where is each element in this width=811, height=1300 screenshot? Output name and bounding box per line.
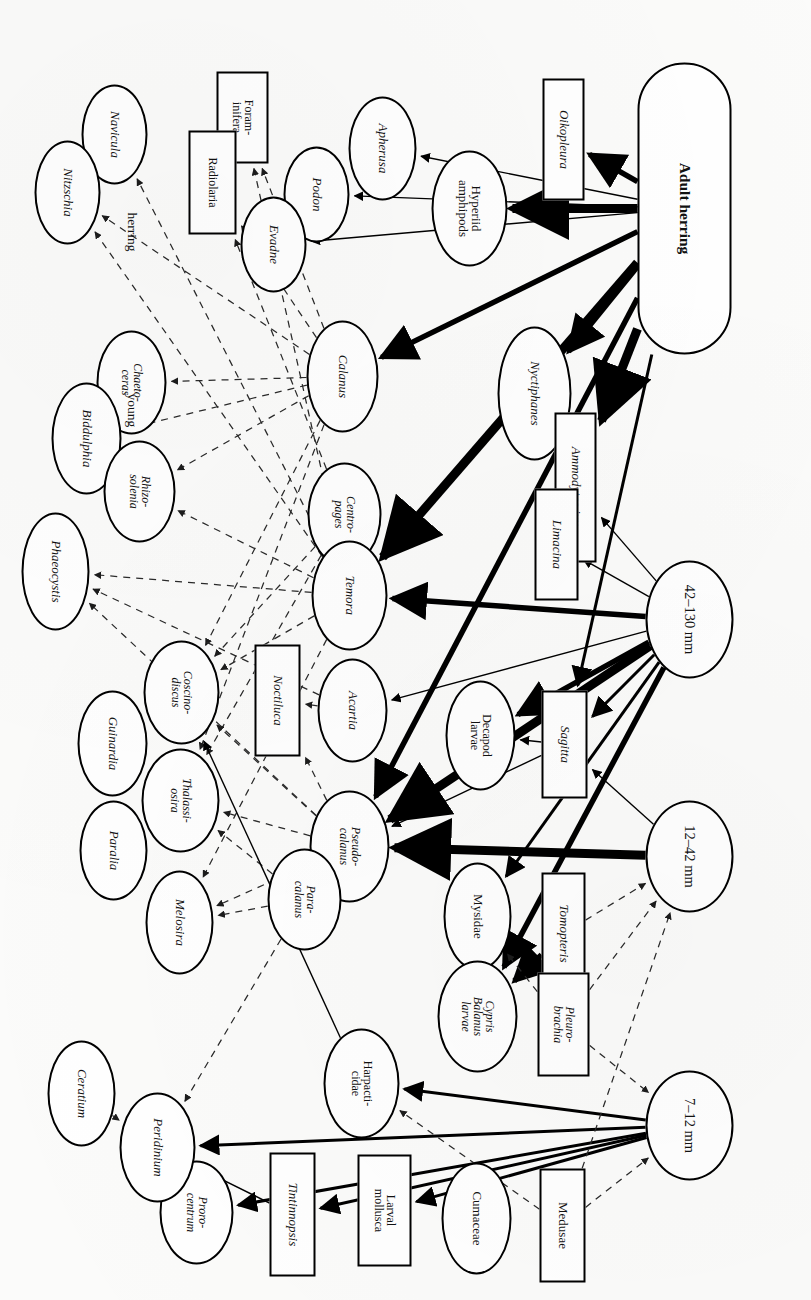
node-label: Melosira <box>172 897 185 948</box>
node-oikopleura[interactable]: Oikopleura <box>542 78 584 200</box>
node-label: Peridinium <box>150 1116 163 1179</box>
node-pleurobrachia[interactable]: Pleuro-brachia <box>537 972 589 1076</box>
node-radiolaria[interactable]: Radiolaria <box>188 130 236 234</box>
node-label: Mysidae <box>470 892 483 941</box>
node-label: Acartia <box>345 689 358 732</box>
node-label: Para-calanus <box>292 878 316 919</box>
node-adult-herring[interactable]: Adult herring <box>637 62 731 354</box>
edge-size-7-12-to-harpacticidae <box>404 1089 645 1120</box>
edge-size-12-42-to-pseudocalamus <box>394 847 645 854</box>
node-hyperiid-amphipods[interactable]: Hyperiidamphipods <box>431 150 507 266</box>
node-coscinodiscus[interactable]: Coscino-discus <box>143 640 219 744</box>
node-rhizosolenia[interactable]: Rhizo-solenia <box>103 440 175 542</box>
node-label: Guinardia <box>105 714 118 772</box>
node-peridinium[interactable]: Peridinium <box>119 1092 195 1202</box>
edge-calamus-to-chaetoceras <box>171 377 306 381</box>
node-medusae[interactable]: Medusae <box>539 1168 585 1282</box>
node-label: Evadne <box>266 223 279 266</box>
node-size-42-130[interactable]: 42–130 mm <box>645 560 733 678</box>
node-label: Cumaceae <box>469 1189 482 1247</box>
node-acartia[interactable]: Acartia <box>317 658 387 762</box>
food-web-stage: Adult herring42–130 mm12–42 mm7–12 mmOik… <box>0 0 811 1300</box>
node-label: 7–12 mm <box>682 1095 697 1154</box>
node-temora[interactable]: Temora <box>311 540 387 650</box>
node-label: Proro-centrum <box>184 1190 208 1233</box>
node-phaeocystis[interactable]: Phaeocystis <box>21 512 89 630</box>
node-label: Thalassi-osira <box>168 776 192 825</box>
node-limacina[interactable]: Limacina <box>534 488 578 600</box>
node-evadne[interactable]: Evadne <box>240 196 306 292</box>
node-decapod-larvae[interactable]: Decapodlarvae <box>445 680 515 790</box>
edge-size-42-130-to-temora <box>392 598 645 616</box>
node-label: Centro-pages <box>332 494 356 535</box>
node-label: Nyctiphanes <box>527 359 540 427</box>
node-size-7-12[interactable]: 7–12 mm <box>645 1070 733 1180</box>
node-label: CyprisBalanuslarvae <box>459 994 496 1037</box>
edge-paracalamus-to-melosira <box>218 906 268 915</box>
node-label: Pseudo-calanus <box>337 824 361 867</box>
node-harpacticidae[interactable]: Harpacti-cidae <box>323 1028 399 1138</box>
node-label: Paralia <box>106 828 119 872</box>
node-paracalamus[interactable]: Para-calanus <box>267 848 341 950</box>
edge-calamus-to-rhizosolenia <box>177 395 308 469</box>
edge-ceratium-to-peridinium <box>112 1115 119 1120</box>
node-label: Navicula <box>107 109 120 160</box>
edge-adult-herring-to-ammodytes <box>601 328 637 420</box>
node-apherusa[interactable]: Apherusa <box>348 96 416 200</box>
lbl-young: young <box>123 393 139 427</box>
node-label: Podon <box>309 175 322 213</box>
edge-paracalamus-to-thalassiosira <box>218 830 273 874</box>
figure-page: Adult herring42–130 mm12–42 mm7–12 mmOik… <box>0 0 811 1300</box>
edge-size-12-42-to-sagitta <box>592 769 653 824</box>
node-label: Adult herring <box>676 160 692 256</box>
node-cypris-balanus[interactable]: CyprisBalanuslarvae <box>437 960 517 1072</box>
node-label: Oikopleura <box>556 107 569 170</box>
lbl-herring: herring <box>123 212 139 251</box>
node-melosira[interactable]: Melosira <box>145 870 213 974</box>
node-label: Hyperiidamphipods <box>456 177 483 238</box>
node-label: Tintinnopsis <box>285 1180 298 1248</box>
node-size-12-42[interactable]: 12–42 mm <box>645 800 733 912</box>
node-label: Harpacti-cidae <box>349 1058 373 1107</box>
node-label: Pleuro-brachia <box>551 1003 575 1044</box>
edge-centropages-to-coscinodiscus <box>214 546 315 656</box>
edge-adult-herring-to-calamus <box>381 231 637 357</box>
node-label: Phaeocystis <box>48 538 61 604</box>
node-label: Calanus <box>335 352 348 399</box>
edge-pseudocalamus-to-noctiluca <box>305 757 326 800</box>
edge-pleurobrachia-to-size-7-12 <box>589 1045 648 1092</box>
node-label: Ceratium <box>74 1066 87 1119</box>
node-label: Radiolaria <box>206 155 218 209</box>
node-paralia[interactable]: Paralia <box>79 800 147 900</box>
node-tintinnopsis[interactable]: Tintinnopsis <box>269 1152 315 1276</box>
node-label: Sagitta <box>557 724 570 765</box>
edge-pseudocalamus-to-thalassiosira <box>223 812 310 836</box>
node-cumaceae[interactable]: Cumaceae <box>441 1162 511 1274</box>
edge-calamus-to-coscinodiscus <box>205 420 320 645</box>
edge-size-42-130-to-limacina <box>583 559 648 596</box>
edge-sagitta-to-decapod-larvae <box>520 739 541 741</box>
edge-tomopteris-to-size-12-42 <box>585 883 645 920</box>
node-thalassiosira[interactable]: Thalassi-osira <box>141 748 219 852</box>
edge-adult-herring-to-oikopleura <box>589 154 637 181</box>
node-label: Temora <box>342 573 355 616</box>
edge-medusae-to-size-7-12 <box>585 1158 648 1207</box>
node-guinardia[interactable]: Guinardia <box>77 690 147 796</box>
node-ceratium[interactable]: Ceratium <box>47 1040 115 1146</box>
node-label: Limacina <box>549 517 562 570</box>
node-calamus[interactable]: Calanus <box>306 320 378 432</box>
edge-temora-to-phaeocystis <box>94 574 311 592</box>
node-sagitta[interactable]: Sagitta <box>541 690 587 798</box>
node-label: Apherusa <box>375 121 388 175</box>
node-noctiluca[interactable]: Noctiluca <box>254 644 300 756</box>
node-label: Noctiluca <box>270 673 283 728</box>
node-nitzschia[interactable]: Nitzschia <box>34 140 100 244</box>
node-mysidae[interactable]: Mysidae <box>443 862 511 970</box>
node-larval-mollusca[interactable]: Larvalmollusca <box>357 1154 411 1266</box>
node-label: Tomopteris <box>556 902 569 964</box>
node-label: 42–130 mm <box>682 582 697 656</box>
edge-pleurobrachia-to-size-12-42 <box>589 901 656 990</box>
node-label: Rhizo-solenia <box>127 472 151 511</box>
node-label: 12–42 mm <box>682 823 697 889</box>
node-label: Decapodlarvae <box>468 712 492 759</box>
